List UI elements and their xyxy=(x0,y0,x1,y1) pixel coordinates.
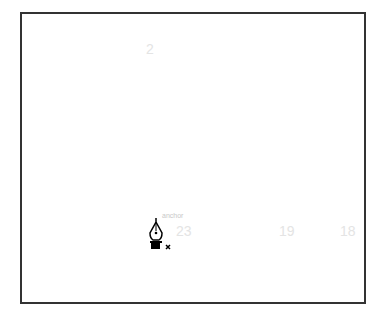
canvas-number: 23 xyxy=(176,223,192,239)
canvas-number: 19 xyxy=(279,223,295,239)
canvas-number: 18 xyxy=(340,223,356,239)
canvas-number: 2 xyxy=(146,41,154,57)
drawing-canvas[interactable] xyxy=(20,12,366,304)
pen-tool-cursor-icon xyxy=(147,217,177,257)
